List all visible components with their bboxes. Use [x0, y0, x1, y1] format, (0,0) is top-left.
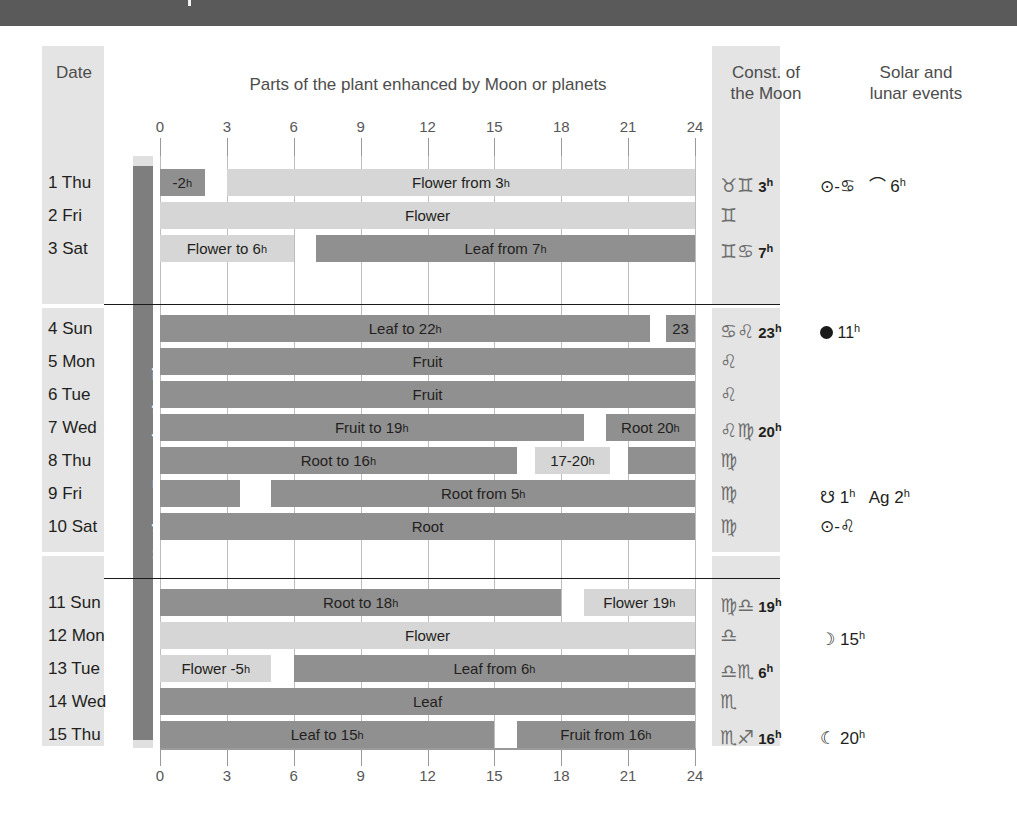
row-segments: Root from 5h — [160, 480, 695, 507]
constellation-cell: ♍ — [712, 510, 780, 543]
day-label: 7 Wed — [40, 411, 114, 444]
axis-top-tick-15 — [494, 138, 495, 156]
calendar-row: 11 Sun Root to 18hFlower 19h ♍♎ 19h — [0, 586, 1017, 619]
day-label: 6 Tue — [40, 378, 114, 411]
row-segments: Fruit — [160, 348, 695, 375]
row-segments: Root to 18hFlower 19h — [160, 589, 695, 616]
calendar-row: 10 Sat Root ♍ ⊙-♌ — [0, 510, 1017, 543]
header-tick-mark — [188, 0, 191, 6]
bar-segment: Leaf from 6h — [294, 655, 695, 682]
event-cell — [820, 378, 1015, 411]
row-segments: Flower -5hLeaf from 6h — [160, 655, 695, 682]
event-cell — [820, 685, 1015, 718]
constellation-cell: ♌♍ 20h — [712, 411, 780, 444]
day-label: 2 Fri — [40, 199, 114, 232]
event-cell — [820, 411, 1015, 444]
constellation-cell: ♋♌ 23h — [712, 312, 780, 345]
event-cell: ☋ 1h Ag 2h — [820, 477, 1015, 510]
constellation-cell: ♌ — [712, 345, 780, 378]
axis-top-tick-18 — [561, 138, 562, 156]
row-segments: Flower — [160, 622, 695, 649]
const-header-line1: Const. of — [718, 62, 814, 83]
calendar-row: 3 Sat Flower to 6hLeaf from 7h ♊♋ 7h — [0, 232, 1017, 265]
column-header-constellation: Const. of the Moon — [718, 62, 814, 104]
axis-top-tick-21 — [628, 138, 629, 156]
top-header-bar — [0, 0, 1017, 26]
row-segments: Root to 16h17-20h — [160, 447, 695, 474]
day-label: 3 Sat — [40, 232, 114, 265]
row-segments: -2hFlower from 3h — [160, 169, 695, 196]
constellation-cell: ♍ — [712, 477, 780, 510]
day-label: 9 Fri — [40, 477, 114, 510]
bar-segment: Flower -5h — [160, 655, 271, 682]
row-segments: Flower to 6hLeaf from 7h — [160, 235, 695, 262]
axis-top: 0 3 6 9 12 15 18 21 24 — [160, 122, 695, 156]
constellation-cell: ♊♋ 7h — [712, 232, 780, 265]
axis-top-label-24: 24 — [687, 118, 704, 135]
axis-top-tick-0 — [160, 138, 161, 156]
bar-segment: Flower to 6h — [160, 235, 294, 262]
constellation-cell: ♍♎ 19h — [712, 586, 780, 619]
calendar-row: 4 Sun Leaf to 22h23 ♋♌ 23h 11h — [0, 312, 1017, 345]
axis-top-tick-12 — [428, 138, 429, 156]
calendar-row: 5 Mon Fruit ♌ — [0, 345, 1017, 378]
row-segments: Root — [160, 513, 695, 540]
axis-top-tick-24 — [695, 138, 696, 156]
row-segments: Leaf — [160, 688, 695, 715]
const-header-line2: the Moon — [718, 83, 814, 104]
event-cell — [820, 345, 1015, 378]
calendar-row: 2 Fri Flower ♊ — [0, 199, 1017, 232]
axis-top-tick-3 — [227, 138, 228, 156]
axis-bottom-label-0: 0 — [156, 767, 164, 784]
constellation-cell: ♎ — [712, 619, 780, 652]
bar-segment: Fruit — [160, 381, 695, 408]
column-header-events: Solar and lunar events — [836, 62, 996, 104]
bar-segment: -2h — [160, 169, 205, 196]
row-segments: Leaf to 22h23 — [160, 315, 695, 342]
bar-segment: Leaf to 15h — [160, 721, 494, 748]
day-label: 5 Mon — [40, 345, 114, 378]
bar-segment: Root to 18h — [160, 589, 561, 616]
group-separator — [104, 578, 780, 579]
calendar-row: 7 Wed Fruit to 19hRoot 20h ♌♍ 20h — [0, 411, 1017, 444]
bar-segment: Fruit to 19h — [160, 414, 584, 441]
bar-segment: Fruit from 16h — [517, 721, 695, 748]
event-cell — [820, 586, 1015, 619]
event-cell: ☾ 20h — [820, 718, 1015, 751]
calendar-row: 12 Mon Flower ♎ ☽ 15h — [0, 619, 1017, 652]
day-label: 14 Wed — [40, 685, 114, 718]
constellation-cell: ♊ — [712, 199, 780, 232]
day-label: 13 Tue — [40, 652, 114, 685]
axis-top-tick-6 — [294, 138, 295, 156]
bar-segment: Leaf — [160, 688, 695, 715]
calendar-row: 1 Thu -2hFlower from 3h ♉♊ 3h ⊙-♋ ⌒ 6h — [0, 166, 1017, 199]
axis-top-label-3: 3 — [223, 118, 231, 135]
bar-segment — [160, 480, 240, 507]
constellation-cell: ♍ — [712, 444, 780, 477]
bar-segment: Root — [160, 513, 695, 540]
bar-segment: Flower from 3h — [227, 169, 695, 196]
bar-segment: 17-20h — [535, 447, 611, 474]
row-segments: Fruit — [160, 381, 695, 408]
axis-bottom-label-15: 15 — [486, 767, 503, 784]
event-cell — [820, 199, 1015, 232]
events-header-line2: lunar events — [836, 83, 996, 104]
axis-bottom-label-24: 24 — [687, 767, 704, 784]
group-separator — [104, 304, 780, 305]
bar-segment: Flower — [160, 202, 695, 229]
constellation-cell: ♏ — [712, 685, 780, 718]
row-segments: Flower — [160, 202, 695, 229]
axis-bottom-label-18: 18 — [553, 767, 570, 784]
axis-top-label-6: 6 — [290, 118, 298, 135]
event-cell: ⊙-♌ — [820, 510, 1015, 543]
day-label: 8 Thu — [40, 444, 114, 477]
calendar-row: 13 Tue Flower -5hLeaf from 6h ♎♏ 6h — [0, 652, 1017, 685]
calendar-row: 14 Wed Leaf ♏ — [0, 685, 1017, 718]
new-moon-icon — [820, 326, 833, 339]
bar-segment: 23 — [666, 315, 695, 342]
events-header-line1: Solar and — [836, 62, 996, 83]
calendar-row: 15 Thu Leaf to 15hFruit from 16h ♏♐ 16h … — [0, 718, 1017, 751]
day-label: 12 Mon — [40, 619, 114, 652]
axis-top-label-18: 18 — [553, 118, 570, 135]
event-cell: 11h — [820, 312, 1015, 345]
